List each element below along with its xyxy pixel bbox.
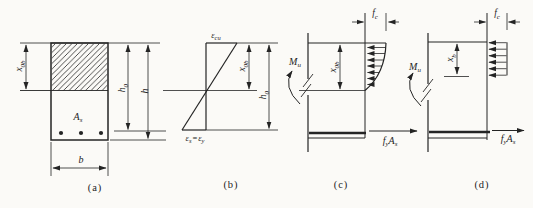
- compression-zone-hatch: [52, 44, 108, 91]
- math-sub: 0: [263, 91, 271, 95]
- moment-arrow: [409, 73, 421, 106]
- math-base: h: [258, 94, 268, 99]
- label-fc-c: fc: [372, 9, 378, 19]
- math-base: b: [79, 154, 84, 165]
- label-fyas-d: fyAs: [501, 134, 516, 144]
- break-symbol: [301, 74, 313, 97]
- math-sub: b: [450, 54, 458, 58]
- math-sub: s: [513, 138, 516, 146]
- math-sub: c: [375, 13, 378, 21]
- caption-b: (b): [223, 180, 238, 191]
- label-eps-cu: εcu: [211, 31, 221, 40]
- label-fyas-c: fyAs: [383, 136, 398, 146]
- label-eps-s-eq-eps-y: εs=εy: [186, 134, 205, 143]
- label-mu-d: Mu: [409, 62, 421, 72]
- strain-profile-line: [182, 43, 237, 130]
- label-mu-c: Mu: [289, 57, 301, 67]
- panel-a-cross-section: [20, 43, 166, 176]
- math-sub: s: [395, 140, 398, 148]
- stress-curve: [365, 43, 386, 91]
- caption-a: (a): [88, 183, 103, 194]
- label-xb-d: xb: [446, 54, 456, 62]
- math-sub: u: [297, 61, 301, 69]
- math-sub: u: [417, 66, 421, 74]
- panel-d-rect-stress-diagram: [409, 13, 524, 152]
- math-sub: c: [497, 13, 500, 21]
- label-fc-d: fc: [494, 9, 500, 19]
- math-sub: y: [202, 137, 205, 144]
- panel-b-strain-diagram: [163, 43, 278, 130]
- caption-d: (d): [474, 180, 489, 191]
- math-base: h: [117, 87, 127, 92]
- math-sub: cu: [215, 34, 221, 41]
- math-sub: s: [80, 116, 83, 124]
- compression-stress-arrows: [489, 43, 507, 75]
- math-base: x: [237, 67, 247, 71]
- label-x0b-c: x0b: [329, 61, 339, 72]
- compression-stress-arrows: [368, 48, 386, 85]
- equals-sign: =: [191, 133, 198, 143]
- figure-canvas: x0b As b h0 h (a) εcu εs=εy x0b h0 (b) f…: [0, 0, 533, 208]
- math-base: x: [445, 58, 455, 62]
- label-x0b-b: x0b: [238, 60, 248, 71]
- label-h-a: h: [140, 89, 150, 94]
- label-as: As: [74, 112, 83, 122]
- label-h0-a: h0: [118, 84, 128, 92]
- label-b-dim: b: [79, 155, 84, 165]
- panel-c-stress-diagram: [288, 13, 417, 152]
- break-symbol: [421, 79, 433, 102]
- math-sub: 0: [122, 84, 130, 88]
- moment-arrow: [288, 71, 300, 104]
- beam-diagram-svg: [0, 0, 533, 208]
- math-base: x: [328, 68, 338, 72]
- math-base: x: [14, 67, 24, 71]
- math-sub: 0b: [333, 61, 341, 68]
- math-sub: 0b: [19, 60, 27, 67]
- label-h0-b: h0: [259, 91, 269, 99]
- label-x0b-a: x0b: [15, 60, 25, 71]
- caption-c: (c): [334, 180, 349, 191]
- math-sub: 0b: [242, 60, 250, 67]
- rebar-dots: [59, 131, 103, 135]
- math-base: h: [139, 89, 150, 94]
